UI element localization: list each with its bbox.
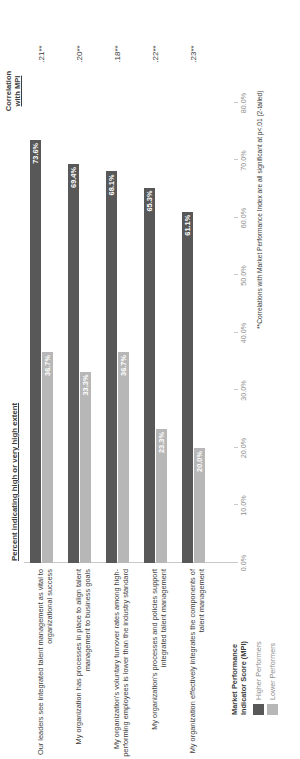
- legend-item: Lower Performers: [267, 641, 278, 715]
- axis-tick-label: 30.0%: [239, 380, 248, 400]
- bar-value-label: 69.4%: [70, 167, 77, 188]
- legend-item: Higher Performers: [253, 641, 264, 715]
- chart-footnote: **Correlations with Market Performance I…: [256, 91, 263, 329]
- axis-tick-label: 20.0%: [239, 438, 248, 458]
- axis-tick: [234, 562, 238, 563]
- plot-area: 0.0%10.0%20.0%30.0%40.0%50.0%60.0%70.0%8…: [24, 103, 234, 563]
- category-label: My organization's processes and policies…: [150, 569, 169, 759]
- correlation-value: .18**: [113, 17, 122, 91]
- legend-label: Higher Performers: [254, 641, 263, 700]
- axis-tick-label: 60.0%: [239, 208, 248, 228]
- bar-value-label: 20.0%: [196, 451, 203, 472]
- axis-tick-label: 50.0%: [239, 265, 248, 285]
- bar-higher-performers: 69.4%: [68, 164, 79, 563]
- bar-lower-performers: 36.7%: [118, 352, 129, 563]
- bar-group: My organization's processes and policies…: [144, 103, 174, 563]
- bar-lower-performers: 23.3%: [156, 429, 167, 563]
- category-label: My organization's voluntary turnover rat…: [112, 569, 131, 759]
- bar-group: My organization has processes in place t…: [68, 103, 98, 563]
- bar-higher-performers: 68.1%: [106, 171, 117, 563]
- axis-tick: [234, 390, 238, 391]
- correlation-value: .22**: [151, 17, 160, 91]
- correlation-column-header: Correlation with MPI: [4, 54, 22, 128]
- category-label: My organization has processes in place t…: [74, 569, 93, 759]
- axis-tick-label: 70.0%: [239, 150, 248, 170]
- bar-lower-performers: 20.0%: [194, 448, 205, 563]
- axis-tick: [234, 447, 238, 448]
- bar-higher-performers: 61.1%: [182, 212, 193, 563]
- legend-title: Market Performance Indicator Score (MPI): [230, 641, 249, 715]
- legend-label: Lower Performers: [268, 643, 277, 700]
- legend-swatch: [267, 704, 278, 715]
- axis-tick-label: 40.0%: [239, 323, 248, 343]
- chart-legend: Market Performance Indicator Score (MPI)…: [230, 641, 281, 715]
- chart-title: Percent indicating high or very high ext…: [10, 403, 19, 561]
- category-label: Our leaders see integrated talent manage…: [36, 569, 55, 759]
- correlation-value: .21**: [37, 17, 46, 91]
- bar-higher-performers: 73.6%: [30, 140, 41, 563]
- correlation-value: .20**: [75, 17, 84, 91]
- correlation-header-line1: Correlation: [4, 71, 13, 112]
- axis-tick-label: 0.0%: [239, 555, 248, 571]
- bar-lower-performers: 36.7%: [42, 352, 53, 563]
- axis-tick-label: 10.0%: [239, 495, 248, 515]
- bar-higher-performers: 65.3%: [144, 188, 155, 563]
- axis-tick: [234, 275, 238, 276]
- bar-value-label: 65.3%: [146, 191, 153, 212]
- axis-tick: [234, 505, 238, 506]
- bar-value-label: 36.7%: [120, 355, 127, 376]
- bar-lower-performers: 33.3%: [80, 372, 91, 563]
- category-label: My organization effectively integrates t…: [188, 569, 207, 759]
- bar-group: My organization's voluntary turnover rat…: [106, 103, 136, 563]
- correlation-value: .23**: [189, 17, 198, 91]
- bar-value-label: 36.7%: [44, 355, 51, 376]
- bar-value-label: 33.3%: [82, 375, 89, 396]
- bar-value-label: 61.1%: [184, 215, 191, 236]
- bar-group: My organization effectively integrates t…: [182, 103, 212, 563]
- bar-value-label: 23.3%: [158, 432, 165, 453]
- axis-tick: [234, 102, 238, 103]
- axis-tick: [234, 160, 238, 161]
- axis-tick: [234, 332, 238, 333]
- axis-tick-label: 80.0%: [239, 93, 248, 113]
- bar-value-label: 73.6%: [32, 143, 39, 164]
- bar-value-label: 68.1%: [108, 174, 115, 195]
- correlation-header-line2: with MPI: [13, 76, 22, 107]
- legend-swatch: [253, 704, 264, 715]
- bar-group: Our leaders see integrated talent manage…: [30, 103, 60, 563]
- legend-title-line1: Market Performance: [230, 644, 239, 715]
- legend-items: Higher PerformersLower Performers: [253, 641, 278, 715]
- legend-title-line2: Indicator Score (MPI): [239, 641, 248, 715]
- axis-tick: [234, 217, 238, 218]
